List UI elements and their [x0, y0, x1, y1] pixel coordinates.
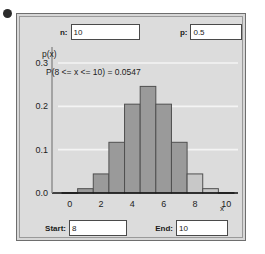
- start-input[interactable]: 8: [69, 220, 127, 236]
- x-tick-label: 0: [67, 199, 72, 209]
- chart-svg: 0.00.10.20.3 0246810 p(x) x P(8 <= x <= …: [20, 45, 244, 217]
- bar: [125, 104, 141, 193]
- y-tick-label: 0.0: [35, 188, 48, 198]
- y-tick-label: 0.1: [35, 145, 48, 155]
- bar-highlighted: [187, 174, 203, 193]
- x-tick-label: 2: [99, 199, 104, 209]
- bar: [140, 86, 156, 193]
- bar: [93, 174, 109, 193]
- chart-bars: [62, 86, 234, 193]
- applet-root: n: 10 p: 0.5 0.00.10.20.3 0246810 p(x): [0, 0, 265, 254]
- p-input[interactable]: 0.5: [190, 24, 242, 40]
- n-input[interactable]: 10: [71, 24, 140, 40]
- end-label: End:: [127, 224, 173, 233]
- p-label: p:: [140, 28, 188, 37]
- x-tick-label: 6: [161, 199, 166, 209]
- probability-annotation: P(8 <= x <= 10) = 0.0547: [46, 67, 141, 77]
- bullet-dot-icon: [3, 9, 12, 18]
- distribution-chart: 0.00.10.20.3 0246810 p(x) x P(8 <= x <= …: [20, 45, 244, 217]
- x-tick-label: 4: [130, 199, 135, 209]
- start-label: Start:: [20, 224, 66, 233]
- y-tick-label: 0.2: [35, 101, 48, 111]
- bar: [171, 142, 187, 193]
- calculator-panel: n: 10 p: 0.5 0.00.10.20.3 0246810 p(x): [16, 13, 246, 241]
- x-axis-label: x: [220, 204, 224, 213]
- bar: [109, 142, 125, 193]
- range-row: Start: 8 End: 10: [20, 220, 242, 236]
- x-tick-labels: 0246810: [67, 199, 231, 209]
- y-axis-label: p(x): [42, 49, 57, 59]
- calculator-panel-inner: n: 10 p: 0.5 0.00.10.20.3 0246810 p(x): [19, 16, 243, 238]
- bar: [156, 104, 172, 193]
- y-tick-labels: 0.00.10.20.3: [35, 58, 48, 198]
- end-input[interactable]: 10: [176, 220, 228, 236]
- parameter-row: n: 10 p: 0.5: [20, 24, 242, 40]
- x-tick-label: 8: [192, 199, 197, 209]
- n-label: n:: [20, 28, 68, 37]
